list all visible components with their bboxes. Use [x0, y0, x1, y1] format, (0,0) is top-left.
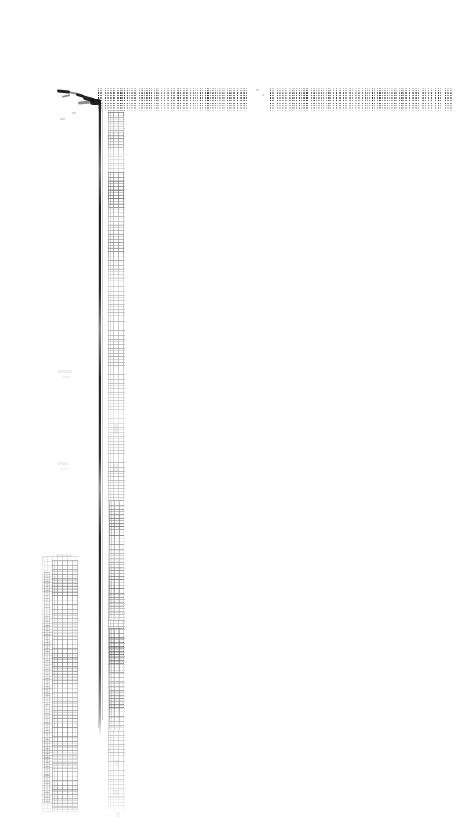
faint-text-column-inner-segment [109, 628, 124, 730]
faint-inner-segment-dropout [109, 628, 124, 730]
header-right-fade-vertical [270, 88, 452, 112]
vertical-rule-halo [102, 102, 103, 720]
faint-text-column-outer-dense [52, 560, 78, 810]
faint-mark [57, 462, 68, 465]
scanned-page [0, 0, 460, 824]
faint-text-column-inner-segment [108, 172, 124, 282]
faint-inner-segment-dropout [108, 112, 124, 158]
faint-mark [62, 376, 71, 378]
faint-edge-streak-ink [44, 572, 50, 802]
header-text-block-left [98, 88, 250, 112]
ink-blot-spur [62, 94, 70, 98]
header-left-fade-vertical [98, 88, 250, 112]
faint-text-column-inner-segment [109, 500, 124, 620]
faint-mark [56, 554, 72, 557]
header-text-block-right [270, 88, 452, 112]
faint-mark [114, 424, 118, 434]
faint-mark [114, 790, 119, 796]
header-speck [60, 118, 65, 120]
faint-mark [58, 370, 72, 373]
faint-text-column-inner-segment [108, 112, 124, 158]
faint-mark [60, 468, 68, 470]
faint-mark [116, 812, 120, 818]
faint-inner-segment-dropout [108, 172, 124, 282]
header-speck [262, 94, 264, 96]
faint-mark [115, 760, 119, 767]
faint-mark [113, 464, 118, 472]
header-speck [72, 112, 76, 114]
faint-inner-segment-dropout [109, 500, 124, 620]
faint-edge-streak [44, 572, 50, 802]
header-speck [256, 89, 259, 91]
vertical-rule-halo [98, 104, 99, 728]
faint-outer-dense-dropout [52, 560, 78, 810]
